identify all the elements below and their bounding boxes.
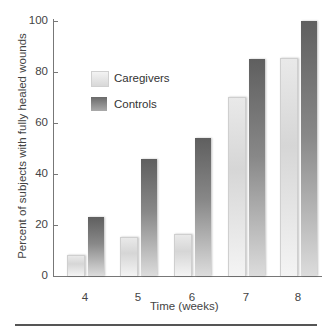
legend-label-caregivers: Caregivers (114, 72, 170, 84)
legend-label-controls: Controls (114, 98, 157, 110)
bar-caregivers-week-8 (280, 58, 298, 276)
x-axis (53, 276, 322, 277)
y-tick-label: 100 (18, 14, 48, 26)
y-axis (53, 19, 54, 277)
bar-controls-week-8 (301, 21, 317, 276)
y-tick (53, 276, 58, 277)
x-tick-label: 5 (128, 291, 148, 303)
bar-caregivers-week-6 (174, 234, 192, 276)
y-axis-label: Percent of subjects with fully healed wo… (16, 26, 28, 266)
y-tick (53, 72, 58, 73)
divider (15, 324, 317, 326)
bar-caregivers-week-5 (120, 237, 138, 276)
bar-caregivers-week-4 (67, 255, 85, 276)
y-tick (53, 123, 58, 124)
y-tick-label: 80 (18, 65, 48, 77)
bar-controls-week-7 (249, 59, 265, 276)
y-tick (53, 21, 58, 22)
y-tick-label: 40 (18, 167, 48, 179)
y-tick-label: 60 (18, 116, 48, 128)
y-tick-label: 0 (18, 269, 48, 281)
y-tick (53, 174, 58, 175)
legend-swatch-controls (91, 97, 107, 111)
bar-controls-week-4 (88, 217, 104, 276)
bar-caregivers-week-7 (228, 97, 246, 277)
bar-controls-week-5 (141, 159, 157, 276)
x-tick-label: 7 (236, 291, 256, 303)
x-axis-label: Time (weeks) (150, 300, 219, 312)
legend-swatch-caregivers (91, 71, 109, 87)
y-tick-label: 20 (18, 218, 48, 230)
y-tick (53, 225, 58, 226)
x-tick-label: 8 (288, 291, 308, 303)
x-tick-label: 4 (75, 291, 95, 303)
bar-controls-week-6 (195, 138, 211, 276)
bar-chart: Percent of subjects with fully healed wo… (0, 0, 332, 327)
